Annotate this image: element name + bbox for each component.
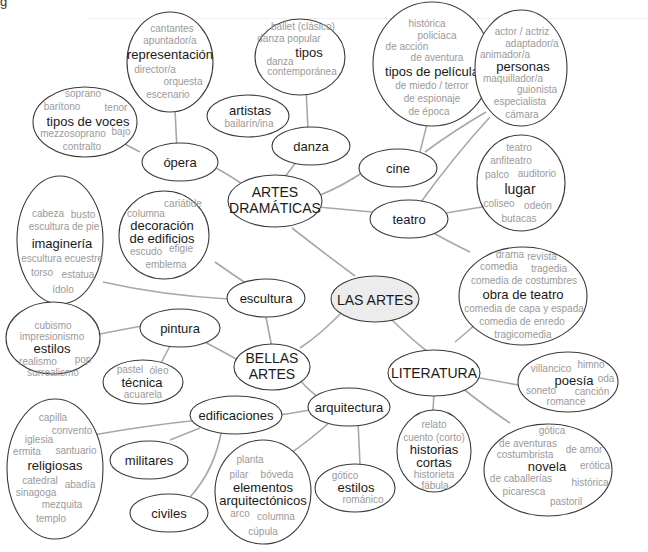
svg-text:obra de teatro: obra de teatro <box>483 287 564 302</box>
svg-text:efigie: efigie <box>169 243 193 254</box>
node-artistas[interactable]: artistas bailarín/ina <box>207 95 289 137</box>
svg-text:tipos de película: tipos de película <box>385 64 480 79</box>
svg-text:anfiteatro: anfiteatro <box>490 155 532 166</box>
node-escultura[interactable]: escultura <box>227 279 305 317</box>
svg-text:tragicomedia: tragicomedia <box>494 329 552 340</box>
svg-text:novela: novela <box>528 459 567 474</box>
node-bellas-artes[interactable]: BELLAS ARTES <box>234 344 310 390</box>
node-historias-cortas[interactable]: relato cuento (corto) historias cortas h… <box>397 410 471 492</box>
node-las-artes[interactable]: LAS ARTES <box>331 276 419 322</box>
svg-text:estilos: estilos <box>338 480 375 495</box>
svg-text:escenario: escenario <box>146 89 190 100</box>
svg-text:revista: revista <box>527 251 557 262</box>
svg-text:de aventura: de aventura <box>411 52 464 63</box>
svg-text:escudo: escudo <box>130 246 163 257</box>
node-estilos-pintura[interactable]: cubismo impresionismo estilos realismo p… <box>6 302 100 378</box>
node-lugar[interactable]: teatro anfiteatro palco auditorio lugar … <box>477 135 565 231</box>
node-tipos-danza[interactable]: ballet (clásico) danza popular tipos dan… <box>255 19 345 95</box>
node-opera[interactable]: ópera <box>142 143 218 181</box>
svg-text:policiaca: policiaca <box>418 30 457 41</box>
node-obra-de-teatro[interactable]: drama revista comedia tragedia comedia d… <box>459 247 587 345</box>
svg-text:cúpula: cúpula <box>248 526 278 537</box>
svg-text:lugar: lugar <box>504 181 535 197</box>
node-edificaciones[interactable]: edificaciones <box>190 396 282 434</box>
node-teatro[interactable]: teatro <box>370 200 448 238</box>
node-imagineria[interactable]: cabeza busto escultura de pie imaginería… <box>17 176 103 304</box>
svg-text:emblema: emblema <box>145 259 187 270</box>
svg-text:de espionaje: de espionaje <box>404 93 461 104</box>
svg-text:butacas: butacas <box>501 213 536 224</box>
svg-text:relato: relato <box>421 419 446 430</box>
svg-text:comedia de costumbres: comedia de costumbres <box>471 275 577 286</box>
svg-text:ARTES: ARTES <box>252 184 298 200</box>
node-arquitectura[interactable]: arquitectura <box>308 388 390 426</box>
svg-text:apuntador/a: apuntador/a <box>143 35 197 46</box>
svg-text:comedia de enredo: comedia de enredo <box>479 316 565 327</box>
svg-text:histórica: histórica <box>571 477 609 488</box>
svg-text:pop: pop <box>75 354 92 365</box>
svg-text:bailarín/ina: bailarín/ina <box>225 118 274 129</box>
svg-text:mezzosoprano: mezzosoprano <box>40 128 106 139</box>
svg-text:BELLAS: BELLAS <box>246 350 299 366</box>
svg-text:de miedo / terror: de miedo / terror <box>395 80 469 91</box>
node-tipos-de-pelicula[interactable]: histórica policiaca de acción de aventur… <box>373 2 491 126</box>
node-decoracion-de-edificios[interactable]: cariátide columna decoración de edificio… <box>119 191 209 279</box>
node-tipos-de-voces[interactable]: soprano barítono tenor tipos de voces me… <box>33 87 137 157</box>
svg-text:cabeza: cabeza <box>32 208 65 219</box>
node-danza[interactable]: danza <box>272 127 350 165</box>
svg-text:cariátide: cariátide <box>164 198 202 209</box>
svg-text:erótica: erótica <box>580 460 610 471</box>
node-civiles[interactable]: civiles <box>130 494 208 532</box>
svg-text:drama: drama <box>496 249 525 260</box>
node-elementos-arquitectonicos[interactable]: planta pilar bóveda elementos arquitectó… <box>215 440 311 544</box>
node-representacion[interactable]: cantantes apuntador/a representación dir… <box>127 12 213 112</box>
svg-text:románico: románico <box>342 494 384 505</box>
node-poesia[interactable]: villancico himno poesía oda soneto canci… <box>518 352 618 412</box>
svg-text:especialista: especialista <box>494 96 547 107</box>
node-estilos-arquitectura[interactable]: gótico estilos románico <box>315 464 395 512</box>
svg-text:civiles: civiles <box>151 506 187 521</box>
svg-text:iglesia: iglesia <box>25 434 54 445</box>
node-militares[interactable]: militares <box>110 441 188 479</box>
svg-text:adaptador/a: adaptador/a <box>505 38 559 49</box>
svg-text:tipos: tipos <box>295 45 323 60</box>
node-pintura[interactable]: pintura <box>140 309 220 347</box>
node-personas[interactable]: actor / actriz adaptador/a animador/a pe… <box>475 10 567 126</box>
svg-text:ídolo: ídolo <box>52 284 74 295</box>
svg-text:acuarela: acuarela <box>124 389 163 400</box>
node-cine[interactable]: cine <box>359 149 437 187</box>
svg-text:LITERATURA: LITERATURA <box>391 365 478 381</box>
svg-text:actor / actriz: actor / actriz <box>495 26 549 37</box>
svg-text:cortas: cortas <box>416 455 452 470</box>
svg-text:contemporánea: contemporánea <box>267 66 337 77</box>
svg-text:contralto: contralto <box>63 141 102 152</box>
svg-text:pilar: pilar <box>230 469 250 480</box>
svg-text:estatua: estatua <box>62 269 95 280</box>
node-artes-dramaticas[interactable]: ARTES DRAMÁTICAS <box>228 175 322 227</box>
svg-text:coliseo: coliseo <box>483 198 515 209</box>
svg-text:arquitectónicos: arquitectónicos <box>219 493 307 508</box>
svg-text:romance: romance <box>547 396 586 407</box>
node-tecnica[interactable]: pastel óleo técnica acuarela <box>103 360 183 404</box>
svg-text:danza popular: danza popular <box>257 33 321 44</box>
svg-text:teatro: teatro <box>392 212 425 227</box>
svg-text:pastel: pastel <box>117 364 144 375</box>
svg-text:cine: cine <box>386 161 410 176</box>
svg-text:escultura: escultura <box>240 291 294 306</box>
node-novela[interactable]: gótica de aventuras de amor costumbrista… <box>484 424 612 516</box>
svg-text:surrealismo: surrealismo <box>27 367 79 378</box>
svg-text:de caballerías: de caballerías <box>490 473 552 484</box>
svg-text:representación: representación <box>127 47 213 62</box>
svg-text:sinagoga: sinagoga <box>16 487 57 498</box>
svg-text:director/a: director/a <box>134 64 176 75</box>
svg-text:pastoril: pastoril <box>550 496 582 507</box>
svg-text:cámara: cámara <box>505 109 539 120</box>
svg-text:columna: columna <box>257 511 295 522</box>
svg-text:edificaciones: edificaciones <box>198 408 274 423</box>
svg-text:abadía: abadía <box>65 479 96 490</box>
svg-text:estilos: estilos <box>34 341 71 356</box>
node-religiosas[interactable]: capilla convento iglesia ermita santuari… <box>7 399 103 539</box>
svg-text:historieta: historieta <box>414 469 455 480</box>
node-literatura[interactable]: LITERATURA <box>388 350 480 396</box>
svg-text:torso: torso <box>31 267 54 278</box>
